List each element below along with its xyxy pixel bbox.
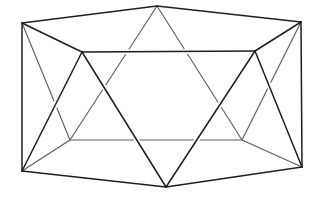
front-edge-DF bbox=[82, 52, 166, 187]
front-edge-BD bbox=[22, 23, 82, 52]
front-edge-CH bbox=[301, 22, 302, 167]
hidden-edge-AI bbox=[70, 6, 157, 140]
hidden-edge-CJ bbox=[242, 22, 301, 140]
front-edge-DE bbox=[82, 51, 255, 52]
hidden-edge-AJ bbox=[157, 6, 242, 140]
front-edge-EF bbox=[166, 51, 255, 187]
front-edge-BA bbox=[22, 6, 157, 23]
front-edge-DG bbox=[22, 52, 82, 171]
front-edge-FH bbox=[166, 167, 302, 187]
antiprism-diagram bbox=[0, 0, 318, 197]
front-edge-AC bbox=[157, 6, 301, 22]
front-edges bbox=[22, 6, 302, 187]
front-edge-halos bbox=[27, 51, 298, 176]
front-edge-GF bbox=[22, 171, 166, 187]
